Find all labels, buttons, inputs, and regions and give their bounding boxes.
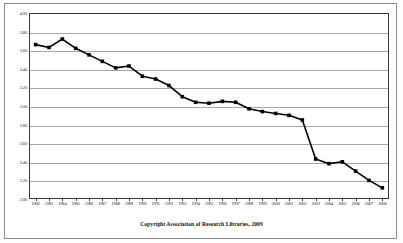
x-axis-tick-label: 1984 (58, 201, 66, 207)
x-axis-tick-label: 1997 (231, 201, 239, 207)
data-point (314, 157, 318, 161)
data-point (87, 53, 91, 57)
data-point (234, 100, 238, 104)
x-axis-tick-label: 1987 (98, 201, 106, 207)
data-point (47, 46, 51, 50)
x-axis-tick-label: 1995 (205, 201, 213, 207)
y-axis-tick-label: 3.00 (20, 104, 27, 109)
series-line (36, 39, 383, 188)
data-point (141, 74, 145, 78)
data-point (127, 64, 131, 68)
x-axis-tick-label: 1988 (111, 201, 119, 207)
x-axis-labels: 1982198319841985198619871988198919901991… (29, 201, 389, 213)
x-axis-tick-label: 2004 (325, 201, 333, 207)
y-axis-tick-label: 2.80 (20, 122, 27, 127)
data-series-layer (29, 13, 389, 199)
x-axis-tick-label: 2005 (338, 201, 346, 207)
y-axis-tick-label: 2.00 (20, 197, 27, 202)
data-point (61, 37, 65, 41)
x-axis-tick-label: 1996 (218, 201, 226, 207)
data-point (74, 47, 78, 51)
data-point (301, 118, 305, 122)
x-axis-tick-label: 2002 (298, 201, 306, 207)
x-axis-tick-label: 1989 (125, 201, 133, 207)
data-point (101, 60, 105, 64)
data-point (154, 77, 158, 81)
x-axis-tick-label: 2007 (365, 201, 373, 207)
x-axis-tick-label: 1998 (245, 201, 253, 207)
x-axis-tick-label: 1994 (191, 201, 199, 207)
figure-caption: Copyright Association of Research Librar… (0, 220, 403, 228)
x-axis-tick-label: 1985 (71, 201, 79, 207)
data-point (287, 114, 291, 118)
data-point (221, 100, 225, 104)
x-axis-tick-label: 2008 (378, 201, 386, 207)
x-axis-tick-label: 1993 (178, 201, 186, 207)
figure-container: 4.003.803.603.403.203.002.802.602.402.20… (0, 0, 403, 243)
y-axis-labels: 4.003.803.603.403.203.002.802.602.402.20… (4, 13, 29, 199)
x-axis-tick-label: 1999 (258, 201, 266, 207)
y-axis-tick-label: 2.60 (20, 141, 27, 146)
x-axis-tick-label: 1991 (151, 201, 159, 207)
y-axis-tick-label: 4.00 (20, 11, 27, 16)
data-point (167, 84, 171, 88)
y-axis-tick-label: 3.60 (20, 48, 27, 53)
x-axis-tick-label: 2006 (351, 201, 359, 207)
x-axis-tick-label: 2001 (285, 201, 293, 207)
y-axis-tick-label: 2.40 (20, 159, 27, 164)
data-point (34, 43, 38, 47)
x-axis-tick-label: 1986 (85, 201, 93, 207)
data-point (181, 95, 185, 99)
data-point (274, 112, 278, 116)
data-point (327, 162, 331, 166)
x-axis-tick-label: 2000 (271, 201, 279, 207)
data-point (247, 107, 251, 111)
x-axis-tick-label: 2003 (311, 201, 319, 207)
y-axis-tick-label: 2.20 (20, 178, 27, 183)
y-axis-tick-label: 3.20 (20, 85, 27, 90)
x-axis-tick-label: 1982 (31, 201, 39, 207)
data-point (194, 100, 198, 104)
series-markers (34, 37, 384, 189)
data-point (381, 186, 385, 190)
data-point (261, 110, 265, 114)
data-point (341, 160, 345, 164)
data-point (114, 66, 118, 70)
y-axis-tick-label: 3.80 (20, 29, 27, 34)
data-point (207, 101, 211, 105)
y-axis-tick-label: 3.40 (20, 66, 27, 71)
data-point (367, 179, 371, 183)
x-axis-tick-label: 1992 (165, 201, 173, 207)
data-point (354, 169, 358, 173)
x-axis-tick-label: 1990 (138, 201, 146, 207)
x-axis-tick-label: 1983 (45, 201, 53, 207)
